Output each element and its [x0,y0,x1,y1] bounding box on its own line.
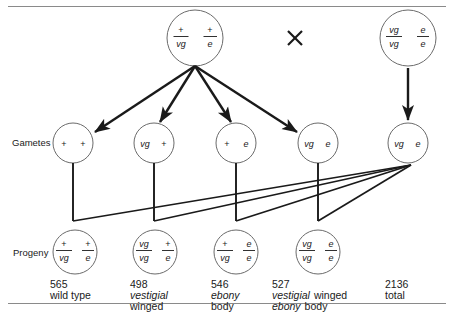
gamete-plus-e: + e [216,123,256,163]
cross-symbol [288,31,302,45]
parent1-left-allele-top: + [178,25,183,35]
parent1-to-gamete-arrows [95,66,297,132]
progeny-vestigial-winged-ebony-body: vg vg e e 527 vestigialwinged ebonybody [272,230,347,312]
gamete-circle-1 [53,123,93,163]
progeny-ebony-body: + vg e e 546 ebony body [211,230,258,312]
progeny-2-right-allele-top: + [165,239,170,249]
parent2-right-allele-bottom: e [420,39,425,49]
gamete-2-left-allele: vg [140,139,150,149]
progeny-2-left-allele-bottom: vg [139,253,149,263]
gamete-4-right-allele: e [325,139,330,149]
progeny-1-right-allele-top: + [85,239,90,249]
gamete-vg-e: vg e [298,123,338,163]
gamete-3-right-allele: e [243,139,248,149]
progeny-3-left-allele-bottom: vg [220,253,230,263]
progeny-1-phenotype-line-1: wild type [49,289,91,301]
progeny-4-right-allele-top: e [328,239,333,249]
progeny-wild-type: + vg + e 565 wild type [49,230,97,301]
parent1-right-allele-bottom: e [207,39,212,49]
total-label: total [385,289,405,301]
progeny-4-left-allele-bottom: vg [302,253,312,263]
fusion-line-2 [154,165,411,221]
gamete-vg-e-plus: vg + [134,123,174,163]
arrow-to-gamete-1 [95,66,195,132]
progeny-1-left-allele-bottom: vg [59,253,69,263]
gamete-2-right-allele: + [161,139,166,149]
progeny-circle-3 [214,230,258,274]
progeny-4-right-allele-bottom: e [328,253,333,263]
progeny-4-pheno-word-ebony: ebony [272,300,301,312]
gametes-row-label: Gametes [12,137,51,148]
fusion-line-1 [73,165,411,221]
parent-male-circle [380,10,436,66]
progeny-3-right-allele-top: e [246,239,251,249]
progeny-circle-1 [53,230,97,274]
gamete-vg-plus-e-plus: + + [53,123,93,163]
gamete-1-left-allele: + [61,139,66,149]
parent1-left-allele-bottom: vg [176,39,186,49]
progeny-4-phenotype-line-2: ebonybody [272,300,328,312]
progeny-1-right-allele-bottom: e [85,253,90,263]
arrow-to-gamete-3 [195,66,231,122]
testcross-diagram: + vg + e vg vg e e Gametes Progeny [0,0,454,321]
parent-male-tester: vg vg e e [380,10,436,66]
tester-gamete-left-allele: vg [394,139,404,149]
parent-female-dihybrid: + vg + e [167,10,223,66]
gamete-3-left-allele: + [224,139,229,149]
tester-gamete-vg-e: vg e [388,123,428,163]
fertilization-lines [73,163,411,221]
progeny-1-left-allele-top: + [61,239,66,249]
progeny-2-right-allele-bottom: e [165,253,170,263]
fusion-line-3 [236,165,411,221]
progeny-total: 2136 total [385,278,409,301]
arrow-to-gamete-2 [160,66,195,122]
parent-female-circle [167,10,223,66]
gamete-circle-3 [216,123,256,163]
arrow-to-gamete-4 [195,66,297,132]
progeny-4-left-allele-top: vg [302,239,312,249]
progeny-circle-4 [296,230,340,274]
progeny-vestigial-winged: vg vg + e 498 vestigial winged [129,230,177,312]
progeny-row-label: Progeny [13,247,49,258]
gamete-4-left-allele: vg [304,139,314,149]
progeny-2-phenotype-line-2: winged [129,300,163,312]
gamete-1-right-allele: + [80,139,85,149]
progeny-4-pheno-word-body: body [305,300,329,312]
parent2-left-allele-top: vg [389,25,399,35]
progeny-circle-2 [133,230,177,274]
parent2-left-allele-bottom: vg [389,39,399,49]
parent2-right-allele-top: e [420,25,425,35]
tester-gamete-right-allele: e [415,139,420,149]
progeny-3-right-allele-bottom: e [246,253,251,263]
progeny-2-left-allele-top: vg [139,239,149,249]
progeny-3-phenotype-line-2: body [211,300,235,312]
parent1-right-allele-top: + [207,25,212,35]
progeny-3-left-allele-top: + [222,239,227,249]
